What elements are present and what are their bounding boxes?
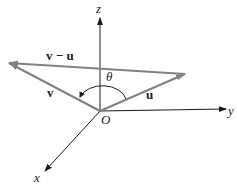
z-axis-label: z (95, 1, 101, 16)
vector-diagram: z y x O v − u v u θ (0, 0, 237, 189)
y-axis (100, 109, 226, 111)
origin-label: O (101, 112, 111, 127)
vector-u-label: u (146, 87, 153, 102)
vector-v-minus-u-label: v − u (46, 48, 74, 63)
angle-theta-label: θ (106, 69, 113, 84)
x-axis (45, 111, 100, 171)
vector-v-minus-u (9, 63, 185, 74)
vector-v (9, 63, 100, 111)
vector-u (100, 74, 185, 111)
x-axis-label: x (33, 170, 40, 185)
angle-arc (80, 86, 126, 99)
y-axis-label: y (226, 103, 234, 118)
vector-v-label: v (47, 85, 54, 100)
